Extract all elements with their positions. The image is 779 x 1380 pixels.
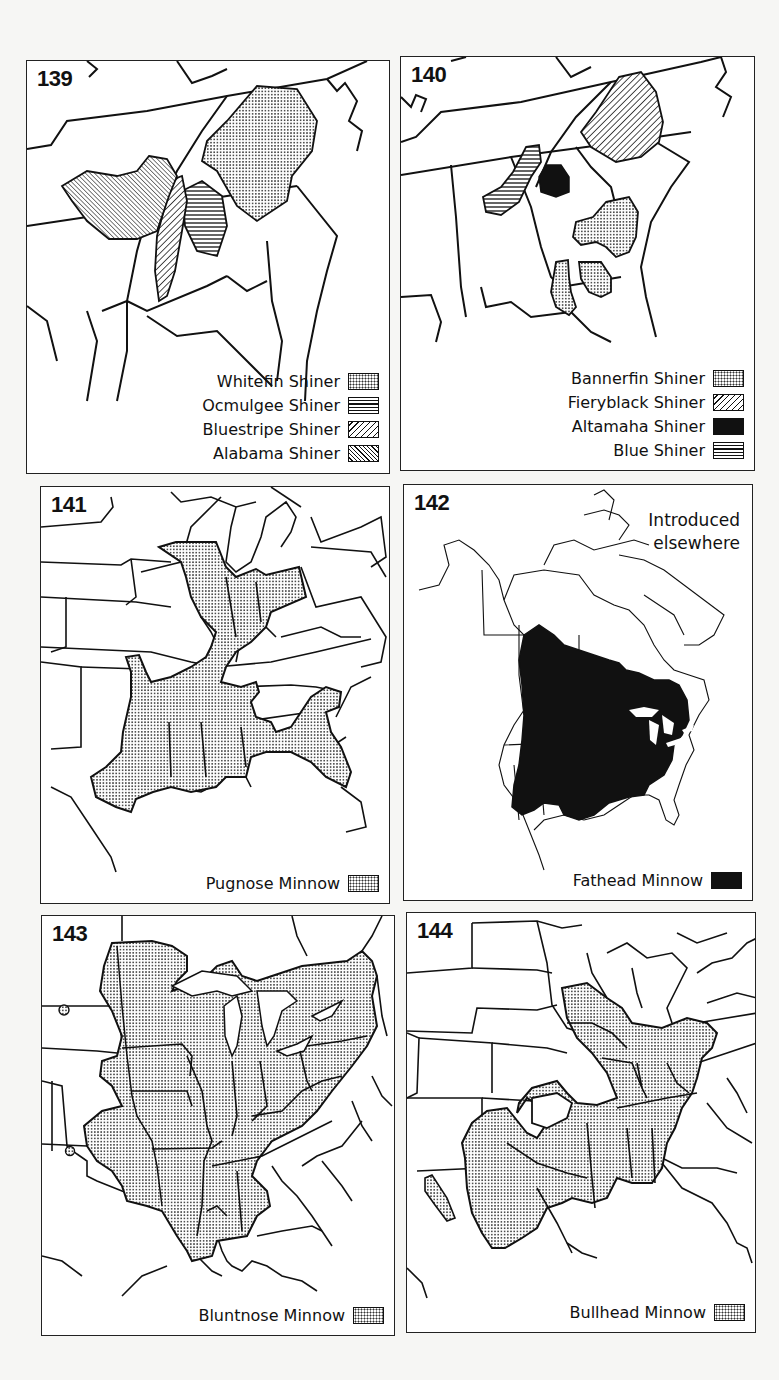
- range-fathead-minnow: [512, 625, 689, 820]
- solid-black-swatch-icon: [713, 418, 744, 435]
- map-panel-143: 143 Bluntnose Minnow: [41, 915, 395, 1336]
- legend-label: Pugnose Minnow: [206, 874, 340, 893]
- legend-label: Blue Shiner: [613, 441, 705, 460]
- legend-item-whitefin-shiner: Whitefin Shiner: [202, 369, 379, 393]
- legend-item-pugnose-minnow: Pugnose Minnow: [206, 871, 379, 895]
- legend-item-ocmulgee-shiner: Ocmulgee Shiner: [202, 393, 379, 417]
- note-line: Introduced: [648, 509, 740, 532]
- legend-label: Bluestripe Shiner: [203, 420, 340, 439]
- legend-label: Fieryblack Shiner: [568, 393, 705, 412]
- range-pugnose-minnow: [91, 542, 351, 812]
- horizontal-lines-swatch-icon: [713, 442, 744, 459]
- range-disjunct-spot: [59, 1005, 69, 1015]
- map-number: 139: [37, 67, 75, 91]
- map-panel-140: 140 Bannerfin Shiner Fieryblack Shiner A…: [400, 56, 755, 471]
- note-line: elsewhere: [648, 532, 740, 555]
- range-disjunct-spot: [66, 1147, 75, 1156]
- map-legend: Pugnose Minnow: [206, 871, 379, 895]
- solid-black-swatch-icon: [711, 872, 742, 889]
- map-legend: Fathead Minnow: [573, 868, 742, 892]
- stipple-pattern-swatch-icon: [348, 373, 379, 390]
- range-map-central-eastern-us: [407, 913, 756, 1333]
- map-legend: Whitefin Shiner Ocmulgee Shiner Bluestri…: [202, 369, 379, 465]
- legend-label: Ocmulgee Shiner: [202, 396, 340, 415]
- diagonal-lines-swatch-icon: [348, 421, 379, 438]
- legend-label: Bannerfin Shiner: [571, 369, 705, 388]
- introduced-note: Introduced elsewhere: [648, 509, 740, 555]
- stipple-pattern-swatch-icon: [713, 370, 744, 387]
- legend-item-bullhead-minnow: Bullhead Minnow: [570, 1300, 745, 1324]
- map-panel-144: 144 Bullhead Minnow: [406, 912, 756, 1333]
- map-number: 142: [414, 491, 452, 515]
- legend-item-bluntnose-minnow: Bluntnose Minnow: [198, 1303, 384, 1327]
- stipple-pattern-swatch-icon: [348, 875, 379, 892]
- map-legend: Bullhead Minnow: [570, 1300, 745, 1324]
- map-number: 144: [417, 919, 455, 943]
- map-legend: Bannerfin Shiner Fieryblack Shiner Altam…: [568, 366, 744, 462]
- legend-item-bluestripe-shiner: Bluestripe Shiner: [202, 417, 379, 441]
- stipple-pattern-swatch-icon: [714, 1304, 745, 1321]
- legend-item-fathead-minnow: Fathead Minnow: [573, 868, 742, 892]
- fine-diagonal-lines-swatch-icon: [348, 445, 379, 462]
- legend-label: Alabama Shiner: [213, 444, 340, 463]
- legend-label: Whitefin Shiner: [217, 372, 340, 391]
- map-panel-142: 142 Introduced elsewhere Fathead Minnow: [403, 484, 753, 901]
- legend-label: Fathead Minnow: [573, 871, 703, 890]
- legend-item-alabama-shiner: Alabama Shiner: [202, 441, 379, 465]
- range-ocmulgee-shiner: [182, 181, 227, 256]
- legend-item-bannerfin-shiner: Bannerfin Shiner: [568, 366, 744, 390]
- horizontal-lines-swatch-icon: [348, 397, 379, 414]
- legend-label: Altamaha Shiner: [572, 417, 705, 436]
- range-map-eastern-us: [42, 916, 395, 1336]
- map-number: 143: [52, 922, 90, 946]
- range-bannerfin-shiner-south-b: [579, 262, 611, 297]
- range-map-eastern-us: [41, 487, 390, 904]
- legend-item-blue-shiner: Blue Shiner: [568, 438, 744, 462]
- map-number: 140: [411, 63, 449, 87]
- legend-label: Bullhead Minnow: [570, 1303, 706, 1322]
- map-legend: Bluntnose Minnow: [198, 1303, 384, 1327]
- legend-label: Bluntnose Minnow: [198, 1306, 345, 1325]
- legend-item-altamaha-shiner: Altamaha Shiner: [568, 414, 744, 438]
- range-bullhead-minnow-disjunct: [425, 1175, 455, 1221]
- legend-item-fieryblack-shiner: Fieryblack Shiner: [568, 390, 744, 414]
- range-bannerfin-shiner-south-a: [551, 260, 576, 315]
- map-number: 141: [51, 493, 89, 517]
- diagonal-lines-swatch-icon: [713, 394, 744, 411]
- stipple-pattern-swatch-icon: [353, 1307, 384, 1324]
- range-altamaha-shiner: [539, 165, 569, 197]
- range-blue-shiner: [483, 145, 541, 215]
- map-panel-141: 141 Pugnose Minnow: [40, 486, 390, 904]
- range-bannerfin-shiner: [573, 197, 638, 257]
- map-panel-139: 139 Whitefin Shiner Ocmulgee Shiner Blue…: [26, 60, 390, 474]
